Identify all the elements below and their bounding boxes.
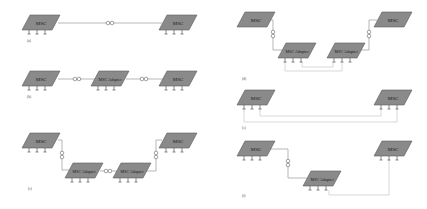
- node-msc[interactable]: MSC: [237, 141, 275, 160]
- svg-text:MSC: MSC: [173, 139, 184, 144]
- wireless-link-icon: [271, 30, 275, 38]
- panel-label: (d): [242, 77, 247, 81]
- svg-text:MSC: MSC: [36, 77, 47, 82]
- svg-text:MSC: MSC: [388, 147, 399, 152]
- svg-text:MSC: MSC: [173, 77, 184, 82]
- bus-line: [244, 109, 397, 122]
- node-msc-adapter[interactable]: MSC Adapter: [327, 43, 365, 62]
- svg-text:MSC Adapter: MSC Adapter: [98, 77, 122, 82]
- node-msc[interactable]: MSC: [22, 133, 60, 152]
- node-msc-adapter[interactable]: MSC Adapter: [113, 163, 151, 182]
- wireless-link-icon: [367, 30, 371, 38]
- wireless-link-icon: [60, 151, 64, 159]
- panel-label: (a): [27, 39, 32, 43]
- wireless-link-icon: [73, 77, 81, 81]
- svg-text:MSC: MSC: [173, 21, 184, 26]
- svg-text:MSC: MSC: [251, 18, 262, 23]
- node-msc[interactable]: MSC: [374, 12, 412, 27]
- panel-d: MSC MSC Adapter MSC Adapter MSC (d): [237, 12, 412, 81]
- wireless-link-icon: [106, 21, 114, 25]
- svg-text:MSC Adapter: MSC Adapter: [72, 169, 96, 174]
- node-msc[interactable]: MSC: [22, 71, 60, 90]
- svg-text:MSC: MSC: [36, 139, 47, 144]
- svg-text:MSC: MSC: [388, 96, 399, 101]
- panel-e: MSC MSC (e): [237, 90, 412, 130]
- panel-label: (e): [242, 126, 247, 130]
- wireless-link-icon: [154, 151, 158, 159]
- node-msc-adapter[interactable]: MSC Adapter: [278, 43, 316, 62]
- panel-label: (f): [242, 194, 246, 198]
- svg-text:MSC: MSC: [251, 96, 262, 101]
- panel-label: (b): [27, 95, 32, 99]
- svg-text:MSC Adapter: MSC Adapter: [285, 49, 309, 54]
- node-msc[interactable]: MSC: [159, 71, 197, 90]
- node-msc[interactable]: MSC: [374, 90, 412, 109]
- svg-text:MSC: MSC: [251, 147, 262, 152]
- svg-text:MSC Adapter: MSC Adapter: [310, 177, 334, 182]
- diagram-canvas: MSC MSC (a) MSC MSC Adapter MSC: [0, 0, 427, 209]
- node-msc[interactable]: MSC: [159, 133, 197, 152]
- bus-line: [260, 109, 381, 116]
- svg-text:MSC Adapter: MSC Adapter: [120, 169, 144, 174]
- panel-a: MSC MSC (a): [22, 15, 197, 43]
- bus-line: [302, 62, 333, 67]
- node-msc[interactable]: MSC: [159, 15, 197, 34]
- panel-f: MSC MSC Adapter MSC (f): [237, 141, 412, 198]
- node-msc-adapter[interactable]: MSC Adapter: [303, 171, 341, 190]
- node-msc[interactable]: MSC: [374, 141, 412, 160]
- node-msc[interactable]: MSC: [237, 12, 275, 27]
- bus-line: [285, 62, 342, 71]
- svg-text:MSC: MSC: [388, 18, 399, 23]
- node-msc-adapter[interactable]: MSC Adapter: [65, 163, 103, 182]
- panel-c: MSC MSC Adapter MSC Adapter MSC (c): [22, 133, 197, 191]
- wireless-link-icon: [140, 77, 148, 81]
- panel-b: MSC MSC Adapter MSC (b): [22, 71, 197, 99]
- node-msc[interactable]: MSC: [237, 90, 275, 109]
- bus-line: [329, 160, 389, 195]
- wireless-link-icon: [286, 159, 290, 167]
- panel-label: (c): [28, 187, 33, 191]
- node-msc[interactable]: MSC: [22, 15, 60, 34]
- wireless-link-icon: [104, 169, 112, 173]
- node-msc-adapter[interactable]: MSC Adapter: [91, 71, 129, 90]
- svg-text:MSC Adapter: MSC Adapter: [334, 49, 358, 54]
- svg-text:MSC: MSC: [36, 21, 47, 26]
